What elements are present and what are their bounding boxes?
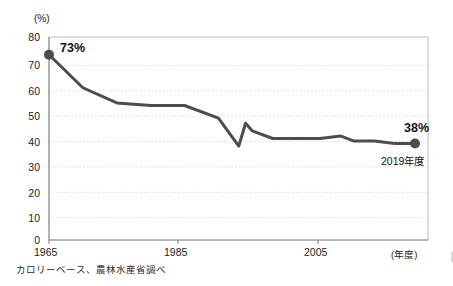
y-tick-label-10: 10 [14, 212, 40, 224]
plot-frame [49, 37, 428, 240]
x-tick-label-2005: 2005 [304, 246, 327, 258]
start-marker [44, 50, 54, 60]
y-tick-label-80: 80 [14, 31, 40, 43]
y-axis-unit-label: (%) [34, 13, 50, 24]
food-self-sufficiency-chart: (%) 80 70 60 50 40 30 20 10 0 1965 1985 … [0, 0, 453, 286]
y-tick-label-20: 20 [14, 187, 40, 199]
page-edge-artifact: 【 [444, 248, 453, 274]
y-tick-label-60: 60 [14, 85, 40, 97]
x-axis-title: (年度) [391, 247, 417, 261]
y-tick-label-0: 0 [14, 234, 40, 246]
end-value-label: 38% [404, 121, 429, 135]
end-year-label: 2019年度 [381, 153, 424, 168]
x-tick-label-1985: 1985 [164, 246, 187, 258]
source-note: カロリーベース、農林水産省調べ [16, 262, 166, 276]
y-tick-label-40: 40 [14, 136, 40, 148]
end-marker [410, 139, 420, 149]
start-value-label: 73% [60, 41, 85, 55]
y-tick-label-50: 50 [14, 110, 40, 122]
x-tick-marks [49, 240, 318, 244]
y-tick-label-70: 70 [14, 59, 40, 71]
x-tick-label-1965: 1965 [34, 246, 57, 258]
y-tick-label-30: 30 [14, 161, 40, 173]
